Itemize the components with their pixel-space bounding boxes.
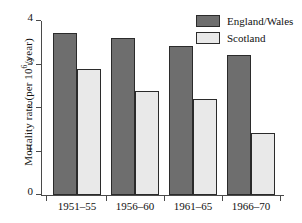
y-axis-tick: 0 [36, 194, 41, 195]
bar-england-wales [53, 33, 77, 195]
legend-label-england-wales: England/Wales [227, 15, 293, 27]
legend-entry-scotland: Scotland [196, 32, 293, 44]
bar-scotland [135, 91, 159, 195]
y-axis-tick-label: 0 [28, 186, 34, 197]
bar-scotland [77, 69, 101, 195]
bar-chart-figure: Mortality rate (per 106/year) 01234 1951… [0, 0, 302, 223]
legend-swatch-icon-england-wales [196, 15, 220, 27]
legend-entry-england-wales: England/Wales [196, 15, 293, 27]
bar-scotland [193, 99, 217, 195]
y-axis-tick: 1 [36, 151, 41, 152]
bar-group [53, 21, 101, 195]
y-axis-tick-label: 4 [28, 12, 34, 23]
y-axis-tick-label: 2 [28, 99, 34, 110]
legend-label-scotland: Scotland [227, 32, 266, 44]
y-axis-line [41, 21, 42, 196]
y-axis-tick: 4 [36, 20, 41, 21]
x-axis-tick-label: 1966–70 [217, 200, 285, 212]
y-axis-tick-label: 1 [28, 143, 34, 154]
y-axis-tick-label: 3 [28, 56, 34, 67]
legend-swatch-icon-scotland [196, 32, 220, 44]
x-axis-tick [46, 196, 47, 201]
y-axis-tick: 3 [36, 64, 41, 65]
bar-england-wales [111, 38, 135, 195]
bar-england-wales [169, 46, 193, 195]
bar-england-wales [227, 55, 251, 195]
bar-group [111, 21, 159, 195]
legend: England/Wales Scotland [196, 15, 293, 49]
bar-scotland [251, 133, 275, 195]
y-axis-tick: 2 [36, 107, 41, 108]
x-axis-line [41, 195, 284, 196]
